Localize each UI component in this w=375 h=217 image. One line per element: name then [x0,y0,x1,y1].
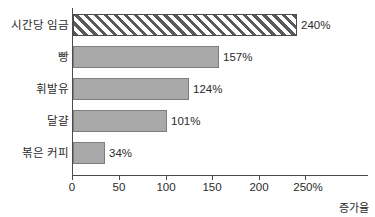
x-tick-mark [166,175,167,180]
x-tick-label: 250% [278,181,338,193]
category-label: 달걀 [3,110,69,132]
plot-area: 시간당 임금 240% 빵 157% 휘발유 124% 달걀 101% 볶은 커… [73,8,368,175]
bar-bread[interactable] [73,46,219,68]
category-label: 휘발유 [3,78,69,100]
bar-chart: 시간당 임금 240% 빵 157% 휘발유 124% 달걀 101% 볶은 커… [0,0,375,217]
category-label: 볶은 커피 [3,142,69,164]
x-tick-mark [305,175,306,180]
x-axis-line [72,175,368,176]
bar-value-label: 101% [171,110,200,132]
x-tick-mark [72,175,73,180]
bar-value-label: 157% [223,46,252,68]
x-axis-title: 증가율 [339,199,369,215]
bar-roasted-coffee[interactable] [73,142,105,164]
x-tick-mark [119,175,120,180]
bar-hourly-wage[interactable] [73,14,297,36]
category-label: 시간당 임금 [3,14,69,36]
x-tick-mark [212,175,213,180]
bar-value-label: 124% [193,78,222,100]
x-tick-mark [259,175,260,180]
bar-gasoline[interactable] [73,78,189,100]
bar-eggs[interactable] [73,110,167,132]
category-label: 빵 [3,46,69,68]
bar-value-label: 34% [109,142,132,164]
bar-value-label: 240% [301,14,330,36]
